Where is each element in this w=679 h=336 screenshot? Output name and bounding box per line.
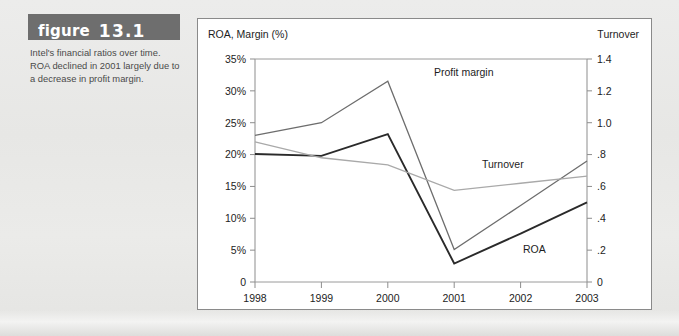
- series-label-profit-margin: Profit margin: [434, 66, 494, 78]
- x-axis-tick-label: 1998: [243, 292, 267, 304]
- figure-caption-text: Intel's financial ratios over time. ROA …: [28, 46, 180, 86]
- figure-caption-block: figure 13.1 Intel's financial ratios ove…: [28, 14, 180, 86]
- y-axis-tick-label-left: 0: [240, 276, 246, 288]
- figure-number: 13.1: [99, 23, 146, 39]
- x-axis-tick-label: 2001: [443, 292, 467, 304]
- x-axis-tick-label: 2002: [509, 292, 533, 304]
- y-axis-tick-label-left: 10%: [225, 212, 246, 224]
- y-axis-tick-label-left: 35%: [225, 53, 246, 65]
- y-axis-tick-label-left: 30%: [225, 85, 246, 97]
- y-axis-tick-label-left: 5%: [231, 244, 246, 256]
- y-axis-tick-label-right: 0: [597, 276, 603, 288]
- y-axis-tick-label-right: .8: [597, 148, 606, 160]
- series-label-turnover: Turnover: [482, 158, 524, 170]
- series-label-roa: ROA: [523, 243, 546, 255]
- series-line-profit-margin: [255, 81, 587, 249]
- y-axis-tick-label-right: 1.0: [597, 117, 612, 129]
- y-axis-tick-label-left: 15%: [225, 180, 246, 192]
- y-axis-tick-label-right: .2: [597, 244, 606, 256]
- x-axis-tick-label: 2000: [376, 292, 400, 304]
- x-axis-tick-label: 1999: [310, 292, 334, 304]
- y-axis-tick-label-left: 20%: [225, 148, 246, 160]
- plot-area: 05%10%15%20%25%30%35%0.2.4.6.81.01.21.41…: [198, 19, 653, 311]
- line-chart-svg: 05%10%15%20%25%30%35%0.2.4.6.81.01.21.41…: [198, 19, 653, 311]
- x-axis-tick-label: 2003: [575, 292, 599, 304]
- y-axis-tick-label-right: 1.4: [597, 53, 612, 65]
- figure-header-bar: figure 13.1: [28, 14, 180, 40]
- y-axis-tick-label-left: 25%: [225, 117, 246, 129]
- figure-label-word: figure: [38, 24, 90, 39]
- chart-panel: ROA, Margin (%) Turnover 05%10%15%20%25%…: [197, 18, 652, 310]
- y-axis-tick-label-right: .4: [597, 212, 606, 224]
- y-axis-tick-label-right: 1.2: [597, 85, 612, 97]
- y-axis-tick-label-right: .6: [597, 180, 606, 192]
